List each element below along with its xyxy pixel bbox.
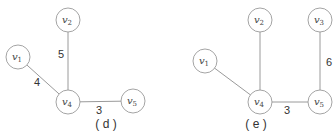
panel-caption: ( d ) — [95, 117, 116, 131]
node-v4: v4 — [248, 90, 272, 114]
node-v5: v5 — [308, 90, 332, 114]
graph-panel-e: 63v1v2v3v4v5( e ) — [193, 8, 332, 131]
panel-caption: ( e ) — [245, 117, 266, 131]
graph-panel-d: 453v1v2v4v5( d ) — [6, 8, 145, 131]
graph-diagram: 453v1v2v4v5( d )63v1v2v3v4v5( e ) — [0, 0, 336, 140]
edge-weight-label: 3 — [284, 104, 290, 116]
edge-weight-label: 3 — [96, 104, 102, 116]
edge-weight-label: 4 — [34, 76, 40, 88]
node-v1: v1 — [193, 49, 217, 73]
node-v4: v4 — [56, 90, 80, 114]
node-v1: v1 — [6, 45, 30, 69]
node-v5: v5 — [121, 89, 145, 113]
node-v2: v2 — [56, 8, 80, 32]
node-v3: v3 — [308, 8, 332, 32]
edge-weight-label: 6 — [326, 56, 332, 68]
edge-weight-label: 5 — [58, 48, 64, 60]
node-v2: v2 — [248, 8, 272, 32]
